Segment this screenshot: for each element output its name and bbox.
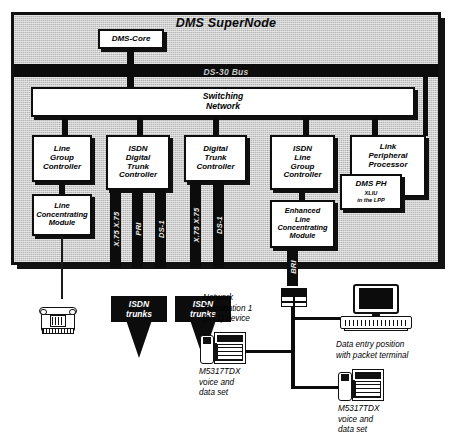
interface-ribbon-x75-b: X.75 X.75: [190, 182, 201, 268]
connector-lcm-to-telephone: [61, 236, 63, 299]
interface-label-ds1-b: DS-1: [214, 216, 223, 234]
telephone-icon: [38, 298, 78, 336]
interface-label-ds1-a: DS-1: [156, 220, 165, 238]
elcm-label: Enhanced Line Concentrating Module: [275, 206, 329, 241]
isdn-dtc-label: ISDN Digital Trunk Controller: [117, 144, 159, 182]
interface-ribbon-x75-a: X.75 X.75: [110, 190, 121, 268]
st-bus-branch-vdset1: [238, 350, 293, 353]
isdn-digital-trunk-controller-box[interactable]: ISDN Digital Trunk Controller: [106, 135, 170, 190]
switching-network-box[interactable]: Switching Network: [31, 87, 415, 117]
st-bus-branch-vdset2: [291, 386, 341, 389]
connector-sn-to-isdn-dtc: [137, 117, 143, 135]
connector-sn-to-dtc: [213, 117, 219, 135]
connector-bus-to-lpp: [423, 76, 428, 136]
dms-ph-title: DMS PH: [355, 180, 386, 189]
lpp-label: Link Peripheral Processor: [366, 142, 409, 171]
lgc-label: Line Group Controller: [41, 144, 83, 173]
line-group-controller-box[interactable]: Line Group Controller: [32, 135, 92, 182]
nt1-device-icon: [281, 288, 307, 307]
dms-ph-subtitle: XLIU in the LPP: [357, 190, 384, 203]
m5317tdx-icon-2: [338, 369, 384, 401]
terminal-caption: Data entry position with packet terminal: [336, 340, 448, 361]
interface-label-x75-a: X.75 X.75: [111, 212, 120, 247]
trunk-1-label: ISDN trunks: [111, 300, 167, 319]
interface-ribbon-ds1-b: DS-1: [213, 182, 224, 268]
enhanced-line-concentrating-module-box[interactable]: Enhanced Line Concentrating Module: [270, 200, 335, 248]
dtc-label: Digital Trunk Controller: [194, 144, 236, 173]
interface-label-pri: PRI: [133, 222, 142, 235]
dms-ph-box[interactable]: DMS PH XLIU in the LPP: [340, 174, 402, 210]
m5317tdx-icon-1: [200, 332, 246, 364]
packet-terminal-icon: [340, 284, 412, 336]
interface-ribbon-bri: BRI: [287, 248, 298, 286]
connector-sn-to-lgc: [62, 117, 68, 135]
connector-sn-to-isdn-lgc: [303, 117, 309, 135]
m5317tdx-2-caption: M5317TDX voice and data set: [338, 404, 408, 436]
interface-label-bri: BRI: [288, 260, 297, 274]
interface-ribbon-pri: PRI: [132, 190, 143, 268]
isdn-line-group-controller-box[interactable]: ISDN Line Group Controller: [270, 135, 335, 190]
switching-network-label: Switching Network: [201, 91, 246, 112]
page-title: DMS SuperNode: [11, 16, 441, 30]
digital-trunk-controller-box[interactable]: Digital Trunk Controller: [184, 135, 247, 182]
lcm-label: Line Concentrating Module: [34, 201, 89, 229]
st-bus-branch-terminal: [291, 317, 343, 320]
m5317tdx-1-caption: M5317TDX voice and data set: [199, 367, 269, 399]
ds30-bus-label: DS-30 Bus: [14, 65, 438, 78]
connector-sn-to-lpp: [372, 117, 378, 135]
connector-isdnlgc-to-elcm: [299, 190, 305, 200]
line-concentrating-module-box[interactable]: Line Concentrating Module: [32, 194, 92, 236]
interface-ribbon-ds1-a: DS-1: [155, 190, 166, 268]
nt1-caption: Network Termination 1 (NT1) device: [203, 293, 281, 325]
connector-lgc-to-lcm: [59, 182, 65, 194]
diagram-canvas: DMS SuperNode DMS-Core DS-30 Bus Switchi…: [0, 0, 454, 445]
dms-core-label: DMS-Core: [110, 34, 153, 45]
isdn-trunk-arrow-1: ISDN trunks: [111, 296, 167, 358]
interface-label-x75-b: X.75 X.75: [191, 208, 200, 243]
dms-core-box[interactable]: DMS-Core: [98, 29, 164, 49]
isdn-lgc-label: ISDN Line Group Controller: [281, 144, 323, 182]
